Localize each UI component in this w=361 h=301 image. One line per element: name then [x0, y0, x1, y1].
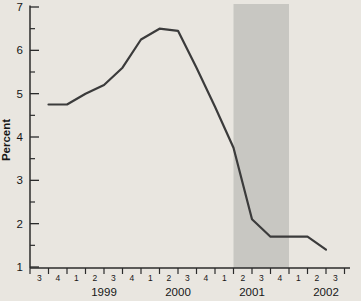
y-tick-label: 4: [17, 131, 24, 143]
x-quarter-label: 2: [314, 273, 319, 283]
x-quarter-label: 2: [166, 273, 171, 283]
x-quarter-label: 3: [185, 273, 190, 283]
x-quarter-label: 4: [277, 273, 282, 283]
x-quarter-label: 3: [111, 273, 116, 283]
x-year-label: 2000: [165, 286, 191, 298]
x-quarter-label: 2: [92, 273, 97, 283]
y-tick-label: 2: [17, 218, 23, 230]
y-tick-label: 5: [17, 88, 23, 100]
y-tick-label: 7: [17, 1, 23, 13]
x-quarter-label: 3: [333, 273, 338, 283]
y-tick-label: 6: [17, 44, 23, 56]
x-quarter-label: 4: [55, 273, 60, 283]
y-tick-label: 1: [17, 261, 23, 273]
x-quarter-label: 4: [203, 273, 208, 283]
x-quarter-label: 1: [148, 273, 153, 283]
x-quarter-label: 1: [222, 273, 227, 283]
line-chart: 1234567341234123412341231999200020012002…: [0, 0, 361, 301]
x-quarter-label: 3: [37, 273, 42, 283]
chart-background: [0, 0, 361, 301]
y-axis-title: Percent: [0, 119, 12, 161]
x-quarter-label: 1: [296, 273, 301, 283]
x-quarter-label: 3: [259, 273, 264, 283]
y-tick-label: 3: [17, 174, 23, 186]
x-quarter-label: 2: [240, 273, 245, 283]
x-quarter-label: 4: [129, 273, 134, 283]
line-chart-svg: 1234567341234123412341231999200020012002…: [0, 0, 361, 301]
x-year-label: 2002: [313, 286, 339, 298]
x-year-label: 2001: [239, 286, 265, 298]
x-year-label: 1999: [91, 286, 117, 298]
x-quarter-label: 1: [74, 273, 79, 283]
